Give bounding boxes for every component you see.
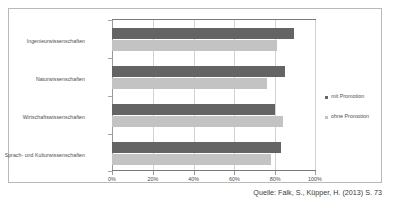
bar-mit-promotion-2[interactable]	[112, 104, 275, 115]
bar-group-1	[112, 58, 316, 96]
bar-ohne-promotion-1[interactable]	[112, 78, 267, 89]
category-label-1: Naturwissenschaften	[0, 76, 85, 82]
chart-canvas: Ingenieurwissenschaften Naturwissenschaf…	[9, 9, 381, 182]
legend-entry-mit-promotion[interactable]: mit Promotion	[325, 93, 381, 113]
chart-figure-frame: Ingenieurwissenschaften Naturwissenschaf…	[8, 8, 382, 183]
x-axis-label-60: 60%	[214, 176, 254, 182]
legend-label: ohne Promotion	[331, 113, 369, 119]
chart-legend: mit Promotion ohne Promotion	[325, 93, 381, 133]
legend-entry-ohne-promotion[interactable]: ohne Promotion	[325, 113, 381, 133]
x-tick-60	[234, 171, 235, 175]
bar-mit-promotion-3[interactable]	[112, 142, 281, 153]
legend-swatch-icon	[325, 96, 328, 99]
x-tick-0	[112, 171, 113, 175]
bar-mit-promotion-1[interactable]	[112, 66, 285, 77]
bar-ohne-promotion-0[interactable]	[112, 40, 277, 51]
category-label-3: Sprach- und Kulturwissenschaften	[0, 152, 85, 158]
category-label-2: Wirtschaftswissenschaften	[0, 114, 85, 120]
x-axis-label-80: 80%	[255, 176, 295, 182]
x-axis-label-20: 20%	[133, 176, 173, 182]
x-tick-20	[153, 171, 154, 175]
bar-group-0	[112, 20, 316, 58]
legend-label: mit Promotion	[331, 93, 364, 99]
legend-swatch-icon	[325, 116, 328, 119]
x-axis-label-40: 40%	[174, 176, 214, 182]
bar-ohne-promotion-3[interactable]	[112, 154, 271, 165]
bar-mit-promotion-0[interactable]	[112, 28, 294, 39]
x-axis-label-0: 0%	[92, 176, 132, 182]
plot-area	[112, 19, 316, 171]
source-caption: Quelle: Falk, S., Küpper, H. (2013) S. 7…	[8, 188, 382, 197]
x-axis-label-100: 100%	[295, 176, 335, 182]
bar-group-3	[112, 134, 316, 172]
bar-ohne-promotion-2[interactable]	[112, 116, 283, 127]
bar-group-2	[112, 96, 316, 134]
category-label-0: Ingenieurwissenschaften	[0, 38, 85, 44]
x-tick-100	[315, 171, 316, 175]
x-tick-40	[194, 171, 195, 175]
x-tick-80	[275, 171, 276, 175]
